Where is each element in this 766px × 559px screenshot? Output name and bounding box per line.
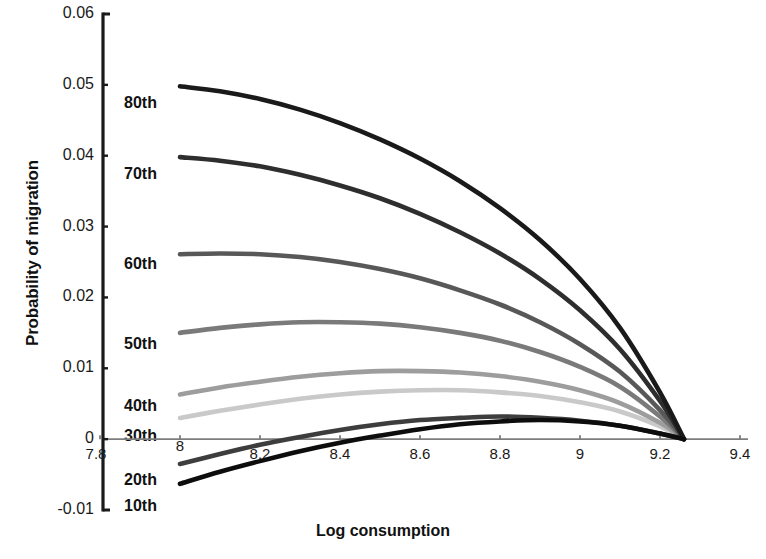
series-line-80th — [180, 86, 684, 439]
chart-figure: Probability of migration Log consumption… — [0, 0, 766, 559]
plot-area — [0, 0, 766, 559]
series-line-60th — [180, 254, 684, 440]
series-line-10th — [180, 420, 684, 484]
bottom-caption — [36, 548, 596, 557]
